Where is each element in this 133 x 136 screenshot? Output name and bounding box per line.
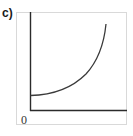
origin-label: 0: [21, 114, 27, 126]
graph-figure: c) 0: [0, 0, 133, 136]
plot-frame: [17, 13, 127, 125]
plot-area: [0, 0, 133, 136]
exponential-curve: [31, 24, 107, 96]
